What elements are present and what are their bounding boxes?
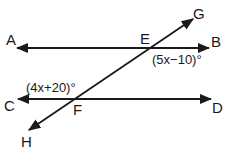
point-label-G: G <box>193 5 205 22</box>
diagram-canvas: A B E G C D F H (5x−10)° (4x+20)° <box>0 0 227 153</box>
point-label-D: D <box>212 99 223 116</box>
angle-label-F: (4x+20)° <box>26 80 76 95</box>
point-label-C: C <box>4 97 15 114</box>
transversal-GH <box>29 19 193 130</box>
point-label-B: B <box>211 33 221 50</box>
point-label-H: H <box>21 133 32 150</box>
angle-label-E: (5x−10)° <box>152 52 202 67</box>
point-label-A: A <box>6 31 16 48</box>
point-label-F: F <box>73 101 82 118</box>
point-label-E: E <box>140 30 150 47</box>
